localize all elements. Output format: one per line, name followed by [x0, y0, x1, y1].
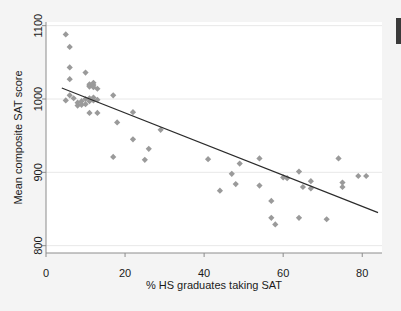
x-tick-label: 20 [119, 267, 131, 279]
y-tick-label: 800 [32, 236, 44, 254]
x-tick-label: 40 [198, 267, 210, 279]
y-axis-label: Mean composite SAT score [12, 70, 24, 204]
y-tick-label: 900 [32, 163, 44, 181]
scatter-plot: 80090010001100020406080% HS graduates ta… [0, 0, 401, 311]
y-tick-label: 1100 [32, 14, 44, 38]
x-tick-label: 80 [356, 267, 368, 279]
x-tick-label: 60 [277, 267, 289, 279]
x-axis-label: % HS graduates taking SAT [146, 279, 282, 291]
plot-area [46, 22, 382, 253]
x-tick-label: 0 [43, 267, 49, 279]
y-tick-label: 1000 [32, 87, 44, 111]
edge-artifact [396, 18, 401, 44]
figure-container: 80090010001100020406080% HS graduates ta… [0, 0, 401, 311]
